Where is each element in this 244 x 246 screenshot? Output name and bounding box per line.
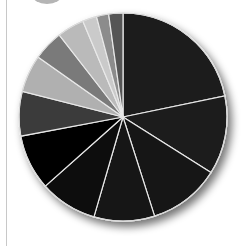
pie-slices (19, 13, 227, 221)
pie-chart (0, 0, 244, 246)
